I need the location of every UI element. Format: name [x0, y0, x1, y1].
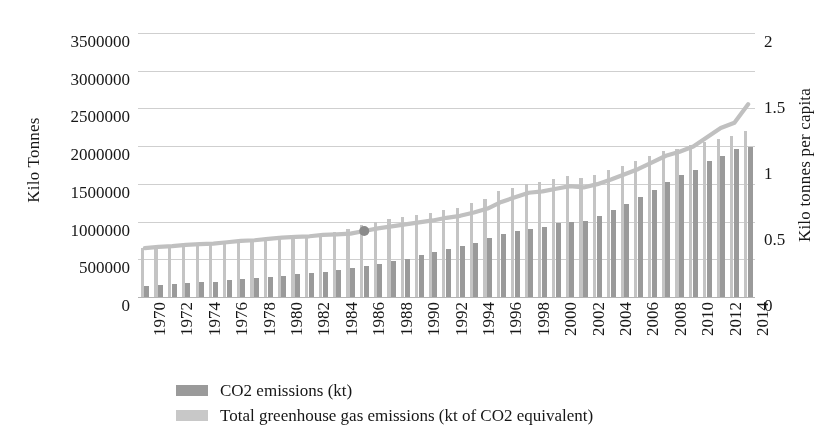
bar-co2: [611, 210, 616, 297]
bar-co2: [144, 286, 149, 297]
bar-ghg: [566, 176, 569, 297]
bar-ghg: [648, 156, 651, 297]
bar-co2: [542, 227, 547, 297]
x-tick-label: 1980: [288, 302, 305, 336]
bar-co2: [624, 204, 629, 297]
x-tick-label: 2000: [562, 302, 579, 336]
bar-co2: [528, 229, 533, 297]
bar-ghg: [168, 246, 171, 297]
bar-ghg: [511, 188, 514, 297]
x-tick-label: 1996: [507, 302, 524, 336]
bar-co2: [364, 266, 369, 297]
bar-co2: [556, 223, 561, 297]
bar-co2: [377, 264, 382, 297]
bar-co2: [158, 285, 163, 297]
bar-ghg: [291, 237, 294, 297]
x-tick-label: 1984: [343, 302, 360, 336]
plot-area: [138, 33, 755, 297]
bar-ghg: [579, 178, 582, 297]
bar-co2: [240, 279, 245, 297]
x-tick-label: 2004: [617, 302, 634, 336]
x-tick-label: 1970: [151, 302, 168, 336]
bar-ghg: [538, 182, 541, 297]
bar-co2: [665, 182, 670, 297]
bar-co2: [309, 273, 314, 297]
bar-ghg: [717, 139, 720, 297]
y-tick-text: 0: [28, 297, 130, 314]
bar-co2: [501, 234, 506, 297]
bar-co2: [185, 283, 190, 297]
bar-ghg: [319, 235, 322, 297]
bar-ghg: [497, 191, 500, 297]
bar-co2: [172, 284, 177, 297]
bar-co2: [734, 149, 739, 297]
emissions-combo-chart: Kilo Tonnes Kilo tonnes per capita 05000…: [0, 0, 837, 446]
bar-ghg: [154, 247, 157, 297]
y-tick-text: 3000000: [28, 71, 130, 88]
bar-ghg: [401, 217, 404, 297]
bar-ghg: [744, 131, 747, 297]
x-tick-label: 2002: [590, 302, 607, 336]
bar-ghg: [237, 242, 240, 297]
legend-item-ghg: Total greenhouse gas emissions (kt of CO…: [176, 403, 796, 428]
legend-item-co2: CO2 emissions (kt): [176, 378, 796, 403]
bar-ghg: [264, 240, 267, 297]
bar-ghg: [552, 179, 555, 297]
bar-co2: [460, 246, 465, 297]
bar-co2: [707, 161, 712, 297]
bar-co2: [487, 238, 492, 297]
legend-swatch-co2-icon: [176, 385, 208, 396]
chart-legend: CO2 emissions (kt) Total greenhouse gas …: [176, 378, 796, 428]
y-tick-text: 1000000: [28, 222, 130, 239]
x-tick-label: 1992: [453, 302, 470, 336]
y-tick-text: 0.5: [764, 231, 804, 248]
bar-co2: [281, 276, 286, 297]
x-tick-label: 1974: [206, 302, 223, 336]
bar-co2: [350, 268, 355, 297]
y-tick-text: 500000: [28, 259, 130, 276]
x-tick-label: 1998: [535, 302, 552, 336]
legend-label-co2: CO2 emissions (kt): [220, 381, 352, 401]
bar-co2: [638, 197, 643, 297]
bar-co2: [583, 221, 588, 297]
x-tick-label: 2012: [727, 302, 744, 336]
x-tick-label: 1986: [370, 302, 387, 336]
y-tick-text: 2: [764, 33, 804, 50]
bar-ghg: [634, 161, 637, 297]
y-tick-text: 3500000: [28, 33, 130, 50]
bar-co2: [473, 243, 478, 297]
bar-ghg: [593, 175, 596, 297]
x-tick-label: 1990: [425, 302, 442, 336]
legend-swatch-ghg-icon: [176, 410, 208, 421]
y-tick-text: 1.5: [764, 99, 804, 116]
bar-co2: [515, 231, 520, 297]
x-tick-label: 2010: [699, 302, 716, 336]
bar-co2: [254, 278, 259, 297]
bar-ghg: [621, 166, 624, 297]
bar-co2: [693, 170, 698, 297]
bar-co2: [652, 190, 657, 297]
bar-ghg: [662, 151, 665, 297]
bar-ghg: [483, 199, 486, 297]
bar-co2: [569, 222, 574, 297]
x-tick-label: 1976: [233, 302, 250, 336]
bar-ghg: [675, 149, 678, 297]
bar-ghg: [689, 145, 692, 297]
bar-co2: [597, 216, 602, 297]
y-tick-text: 2500000: [28, 108, 130, 125]
bar-ghg: [703, 142, 706, 297]
bar-co2: [419, 255, 424, 297]
bar-ghg: [209, 244, 212, 297]
x-tick-label: 1978: [261, 302, 278, 336]
bar-co2: [268, 277, 273, 297]
x-tick-label: 2008: [672, 302, 689, 336]
bar-series-layer: [138, 33, 755, 297]
bar-co2: [679, 175, 684, 297]
y-tick-text: 1500000: [28, 184, 130, 201]
x-axis-ticks: 1970197219741976197819801982198419861988…: [138, 300, 755, 370]
bar-ghg: [442, 210, 445, 297]
bar-co2: [405, 259, 410, 297]
bar-co2: [720, 156, 725, 297]
x-tick-label: 1988: [398, 302, 415, 336]
x-tick-label: 2006: [644, 302, 661, 336]
